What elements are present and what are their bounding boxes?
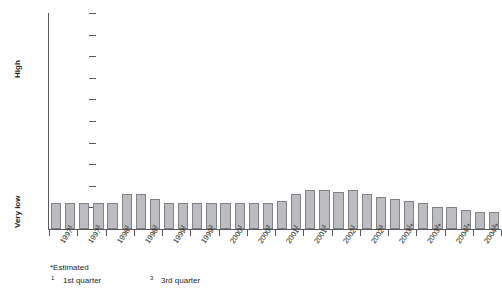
x-axis-tick-label: 20033* [425, 222, 445, 245]
x-axis-tick-label: 20023 [369, 224, 387, 245]
x-axis-tick-label: 19971 [58, 224, 76, 245]
x-axis-tick-label: 20031* [397, 222, 417, 245]
x-axis-tick-label: 20041* [454, 222, 474, 245]
x-axis-labels: 1997119973199811998319991199932000120003… [0, 0, 502, 295]
footnote-q3-superscript: 3 [150, 273, 153, 284]
x-axis-tick-label: 20021 [341, 224, 359, 245]
x-axis-tick-label: 20003 [256, 224, 274, 245]
x-axis-tick-label: 19991 [171, 224, 189, 245]
x-axis-tick-label: 19973 [86, 224, 104, 245]
footnote-q1-text: 1st quarter [63, 275, 101, 286]
x-axis-tick-label: 20011 [284, 224, 302, 245]
x-axis-tick-label: 19981 [115, 224, 133, 245]
x-axis-tick-label: 20013 [312, 224, 330, 245]
x-axis-tick-label: 20001 [228, 224, 246, 245]
bar-chart: High Very low 0102030405060708090100 199… [0, 0, 502, 295]
x-axis-tick-label: 20043* [482, 222, 502, 245]
footnote-q1-superscript: 1 [51, 273, 54, 284]
x-axis-tick-label: 19993 [199, 224, 217, 245]
footnote-q3-text: 3rd quarter [161, 275, 200, 286]
footnote-estimated: *Estimated [50, 262, 89, 273]
x-axis-tick-label: 19983 [143, 224, 161, 245]
